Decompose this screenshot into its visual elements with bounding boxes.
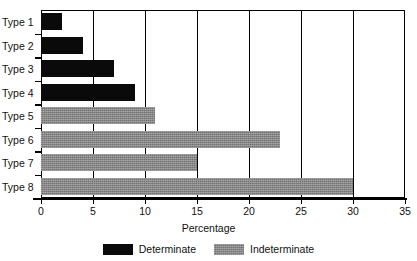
x-label-5: 5	[78, 205, 108, 217]
x-tick	[301, 198, 302, 204]
x-tick	[353, 198, 354, 204]
y-label-type-6: Type 6	[2, 134, 35, 146]
legend-item-determinate: Determinate	[103, 243, 196, 255]
x-label-10: 10	[130, 205, 160, 217]
x-label-35: 35	[390, 205, 417, 217]
legend-label-determinate: Determinate	[139, 243, 196, 255]
x-label-30: 30	[338, 205, 368, 217]
chart-legend: Determinate Indeterminate	[0, 243, 417, 255]
x-axis-title: Percentage	[0, 222, 417, 234]
x-label-0: 0	[26, 205, 56, 217]
x-tick	[145, 198, 146, 204]
legend-item-indeterminate: Indeterminate	[214, 243, 314, 255]
legend-label-indeterminate: Indeterminate	[250, 243, 314, 255]
bar-chart: Type 1 Type 2 Type 3 Type 4 Type 5 Type …	[0, 0, 417, 261]
legend-swatch-determinate	[103, 244, 133, 255]
y-label-type-5: Type 5	[2, 110, 35, 122]
y-label-type-7: Type 7	[2, 157, 35, 169]
y-label-type-2: Type 2	[2, 40, 35, 52]
y-label-type-1: Type 1	[2, 16, 35, 28]
legend-swatch-indeterminate	[214, 244, 244, 255]
x-label-15: 15	[182, 205, 212, 217]
x-tick	[249, 198, 250, 204]
x-tick	[41, 198, 42, 204]
x-label-20: 20	[234, 205, 264, 217]
y-label-type-3: Type 3	[2, 63, 35, 75]
x-label-25: 25	[286, 205, 316, 217]
y-label-type-8: Type 8	[2, 181, 35, 193]
x-tick	[93, 198, 94, 204]
x-tick	[405, 198, 406, 204]
x-tick	[197, 198, 198, 204]
y-label-type-4: Type 4	[2, 87, 35, 99]
x-axis-line	[33, 198, 407, 200]
